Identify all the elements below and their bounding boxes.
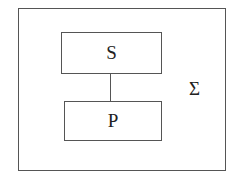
node-p: P <box>64 101 162 141</box>
node-s-label: S <box>106 42 117 64</box>
system-label: Σ <box>189 79 200 99</box>
edge-s-p <box>110 73 111 101</box>
node-s: S <box>61 32 162 74</box>
node-p-label: P <box>108 110 119 132</box>
